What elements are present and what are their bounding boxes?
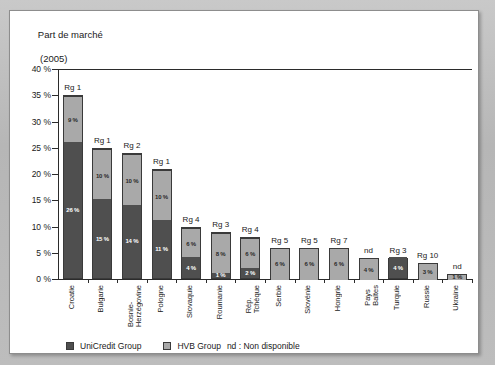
bar-value-label-unicredit: 4 % <box>186 265 196 271</box>
x-axis-tick <box>354 279 355 283</box>
bar-value-label-hvb: 8 % <box>216 251 226 257</box>
bar-value-label-hvb: 10 % <box>155 194 168 200</box>
bar-value-label-hvb: 6 % <box>304 261 314 267</box>
bar-rank-label: Rg 7 <box>330 236 347 245</box>
y-axis-tick-label: 20 % <box>11 169 51 179</box>
bar-segment-hvb: 10 % <box>123 154 141 207</box>
bar-rank-label: Rg 2 <box>123 141 140 150</box>
y-axis-tick <box>52 200 58 201</box>
bar-segment-unicredit: 4 % <box>389 257 407 278</box>
bar-rank-label: Rg 5 <box>301 236 318 245</box>
bar-value-label-unicredit: 14 % <box>125 238 138 244</box>
bar-segment-hvb: 6 % <box>241 238 259 270</box>
chart-legend: UniCredit Group HVB Group nd : Non dispo… <box>66 341 300 351</box>
y-axis-tick-label: 30 % <box>11 117 51 127</box>
x-axis-tick <box>147 279 148 283</box>
bar-rank-label: Rg 1 <box>94 136 111 145</box>
y-axis-labels: 40 %35 %30 %25 %20 %15 %10 %5 %0 % <box>10 11 51 365</box>
y-axis-tick-label: 15 % <box>11 195 51 205</box>
y-axis-tick-label: 35 % <box>11 90 51 100</box>
bar-rank-label: Rg 4 <box>242 225 259 234</box>
bar-segment-hvb: 6 % <box>300 249 318 281</box>
x-axis-category-label: Pays Baltes <box>364 285 380 306</box>
x-axis-tick <box>117 279 118 283</box>
bar-13[interactable]: 3 % <box>418 263 438 279</box>
bar-value-label-hvb: 10 % <box>125 178 138 184</box>
bar-value-label-unicredit: 4 % <box>393 265 403 271</box>
bar-6[interactable]: 8 %1 % <box>211 232 231 279</box>
bar-segment-hvb: 1 % <box>448 275 466 280</box>
x-axis-category-label: Bulgarie <box>97 285 105 313</box>
x-axis-tick <box>206 279 207 283</box>
x-axis-category-label: Roumanie <box>216 285 224 319</box>
bar-rank-label: Rg 3 <box>212 220 229 229</box>
x-axis-tick <box>295 279 296 283</box>
x-axis-category-label: Bosnie- Herzégovine <box>127 285 143 327</box>
x-axis-category-label: Ukraine <box>452 285 460 311</box>
y-axis-tick <box>52 95 58 96</box>
x-axis-category-label: Slovénie <box>304 285 312 314</box>
y-axis-tick-label: 10 % <box>11 222 51 232</box>
y-axis-tick <box>52 174 58 175</box>
bar-value-label-unicredit: 15 % <box>96 236 109 242</box>
bar-9[interactable]: 6 % <box>299 248 319 280</box>
x-axis-category-label: Hongrie <box>334 285 342 311</box>
bar-value-label-hvb: 4 % <box>364 267 374 273</box>
y-axis-tick <box>52 148 58 149</box>
bar-5[interactable]: 6 %4 % <box>181 227 201 280</box>
bar-10[interactable]: 6 % <box>329 248 349 280</box>
bar-segment-unicredit: 4 % <box>182 257 200 278</box>
legend-swatch-unicredit <box>66 342 74 350</box>
bar-segment-hvb: 8 % <box>212 233 230 275</box>
x-axis-tick <box>88 279 89 283</box>
x-axis-tick <box>383 279 384 283</box>
bar-segment-unicredit: 15 % <box>93 199 111 278</box>
bar-3[interactable]: 10 %14 % <box>122 153 142 279</box>
y-axis-tick <box>52 279 58 280</box>
bar-7[interactable]: 6 %2 % <box>240 237 260 279</box>
bar-2[interactable]: 10 %15 % <box>92 148 112 279</box>
x-axis-tick <box>265 279 266 283</box>
bar-14[interactable]: 1 % <box>447 274 467 279</box>
bar-value-label-hvb: 10 % <box>96 173 109 179</box>
bar-8[interactable]: 6 % <box>270 248 290 280</box>
x-axis-category-label: Pologne <box>157 285 165 313</box>
x-axis-category-label: Russie <box>423 285 431 308</box>
x-axis-tick <box>472 279 473 283</box>
bar-value-label-hvb: 6 % <box>275 261 285 267</box>
bar-segment-hvb: 6 % <box>182 228 200 260</box>
bar-value-label-hvb: 6 % <box>334 261 344 267</box>
legend-label-hvb: HVB Group <box>177 341 220 351</box>
y-axis-tick <box>52 253 58 254</box>
bar-4[interactable]: 10 %11 % <box>152 169 172 279</box>
figure-background: Part de marché (2005) 40 %35 %30 %25 %20… <box>0 0 495 365</box>
bar-12[interactable]: 4 % <box>388 258 408 279</box>
x-axis-tick <box>324 279 325 283</box>
y-axis-tick <box>52 69 58 70</box>
bar-value-label-hvb: 9 % <box>68 117 78 123</box>
y-axis-tick <box>52 122 58 123</box>
bar-segment-hvb: 9 % <box>64 96 82 143</box>
bar-segment-hvb: 6 % <box>271 249 289 281</box>
bar-11[interactable]: 4 % <box>359 258 379 279</box>
x-axis-tick <box>235 279 236 283</box>
bar-value-label-unicredit: 11 % <box>155 246 168 252</box>
x-axis-tick <box>442 279 443 283</box>
bar-rank-label: nd <box>364 246 373 255</box>
bar-value-label-hvb: 3 % <box>423 269 433 275</box>
bar-value-label-unicredit: 2 % <box>245 270 255 276</box>
legend-label-unicredit: UniCredit Group <box>80 341 141 351</box>
bar-rank-label: Rg 5 <box>271 236 288 245</box>
plot-area <box>58 69 472 279</box>
y-axis-tick-label: 25 % <box>11 143 51 153</box>
bar-segment-unicredit: 1 % <box>212 273 230 278</box>
bar-segment-unicredit: 2 % <box>241 268 259 279</box>
bar-segment-hvb: 10 % <box>93 149 111 202</box>
bar-1[interactable]: 9 %26 % <box>63 95 83 279</box>
x-axis-category-label: Turquie <box>393 285 401 310</box>
bar-rank-label: Rg 10 <box>417 251 438 260</box>
bar-segment-hvb: 4 % <box>360 259 378 280</box>
bar-value-label-hvb: 1 % <box>452 274 462 280</box>
y-axis-tick-label: 0 % <box>11 274 51 284</box>
bar-segment-hvb: 6 % <box>330 249 348 281</box>
